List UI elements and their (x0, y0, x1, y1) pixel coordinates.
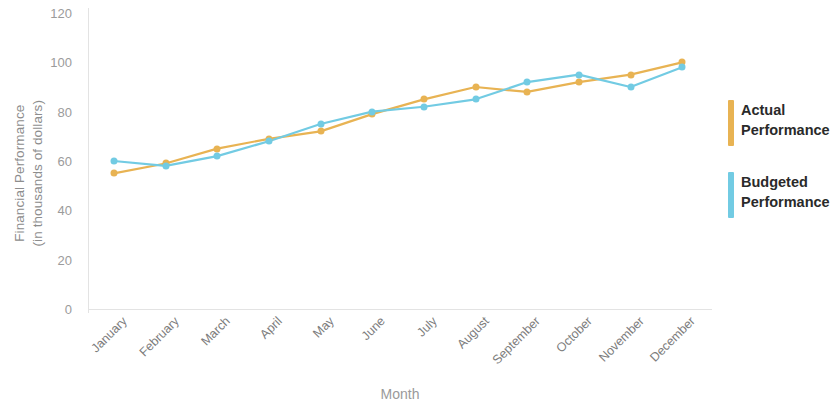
legend-item[interactable]: Budgeted Performance (728, 172, 838, 218)
series-line (114, 67, 682, 166)
y-tick-label: 80 (28, 104, 72, 119)
x-tick-label: February (136, 314, 181, 359)
x-tick-label: October (553, 314, 594, 355)
data-point-marker (524, 79, 531, 86)
data-point-marker (317, 121, 324, 128)
y-axis-tick-labels: 020406080100120 (20, 0, 72, 409)
line-chart: Financial Performance (in thousands of d… (0, 0, 838, 409)
y-tick-label: 100 (28, 55, 72, 70)
y-tick-label: 60 (28, 154, 72, 169)
y-tick-label: 0 (28, 302, 72, 317)
x-tick-label: November (596, 314, 647, 365)
y-tick-label: 40 (28, 203, 72, 218)
x-tick-label: June (359, 314, 388, 343)
data-point-marker (110, 170, 117, 177)
data-point-marker (575, 79, 582, 86)
x-tick-label: December (647, 314, 698, 365)
legend-item-label: Actual Performance (741, 100, 830, 140)
data-point-marker (420, 96, 427, 103)
data-point-marker (162, 162, 169, 169)
data-point-marker (627, 84, 634, 91)
legend-color-swatch (728, 100, 734, 146)
data-point-marker (317, 128, 324, 135)
chart-legend: Actual PerformanceBudgeted Performance (728, 100, 838, 244)
legend-item-label: Budgeted Performance (741, 172, 830, 212)
x-tick-label: May (310, 314, 337, 341)
x-tick-label: March (199, 314, 233, 348)
data-point-marker (472, 84, 479, 91)
x-tick-label: January (88, 314, 129, 355)
data-point-marker (472, 96, 479, 103)
data-point-marker (524, 88, 531, 95)
series-lines (88, 13, 708, 309)
x-tick-label: April (257, 314, 285, 342)
y-tick-label: 120 (28, 6, 72, 21)
data-point-marker (575, 71, 582, 78)
data-point-marker (679, 64, 686, 71)
data-point-marker (110, 158, 117, 165)
x-axis-line (88, 309, 712, 310)
x-tick-label: July (414, 314, 440, 340)
data-point-marker (369, 108, 376, 115)
legend-color-swatch (728, 172, 734, 218)
x-tick-label: September (490, 314, 543, 367)
data-point-marker (420, 103, 427, 110)
x-axis-title: Month (300, 386, 500, 402)
y-tick-label: 20 (28, 252, 72, 267)
legend-item[interactable]: Actual Performance (728, 100, 838, 146)
data-point-marker (214, 153, 221, 160)
x-tick-label: August (454, 314, 491, 351)
data-point-marker (214, 145, 221, 152)
data-point-marker (265, 138, 272, 145)
plot-area (88, 13, 708, 309)
data-point-marker (627, 71, 634, 78)
